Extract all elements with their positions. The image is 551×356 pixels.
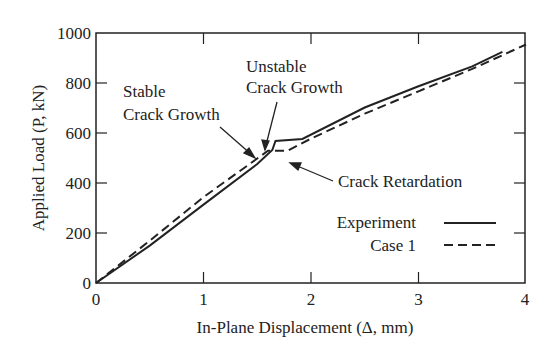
x-tick-label: 3 [414,290,423,309]
legend-label-experiment: Experiment [337,213,417,232]
x-tick-label: 1 [199,290,208,309]
legend: Experiment Case 1 [337,213,496,255]
chart: 0 200 400 600 800 1000 0 1 2 3 4 In-Plan… [0,0,551,356]
y-tick-label: 200 [66,224,92,243]
y-tick-label: 400 [66,174,92,193]
y-tick-label: 0 [83,274,92,293]
annotation-unstable: Crack Growth [246,78,343,97]
annotation-stable: Crack Growth [123,105,220,124]
x-axis-title: In-Plane Displacement (Δ, mm) [197,318,414,337]
x-tick-label: 0 [92,290,101,309]
y-tick-label: 1000 [57,24,91,43]
annotation-unstable: Unstable [246,57,306,76]
annotation-retardation: Crack Retardation [338,172,463,191]
y-tick-label: 800 [66,74,92,93]
x-tick-label: 4 [521,290,530,309]
legend-label-case1: Case 1 [370,236,416,255]
y-tick-label: 600 [66,124,92,143]
y-axis-title: Applied Load (P, kN) [29,85,48,231]
x-tick-label: 2 [307,290,316,309]
annotation-stable: Stable [123,82,166,101]
